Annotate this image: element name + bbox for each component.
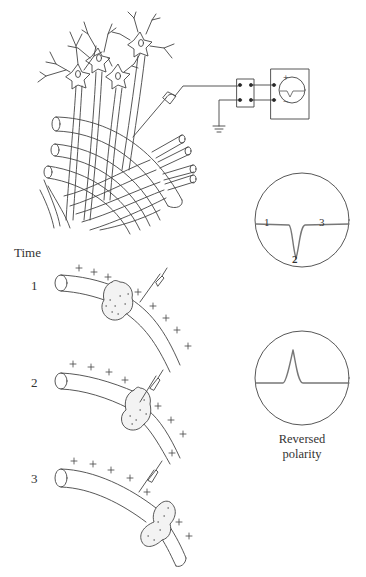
time-step-3: 3 bbox=[31, 471, 38, 487]
nerve-bundle bbox=[40, 117, 196, 234]
switch-box bbox=[213, 79, 274, 132]
time-step-2: 2 bbox=[31, 375, 38, 391]
neuron-recording-diagram: + − 1 2 3 Time 1 2 3 Reversed polarity bbox=[0, 0, 366, 577]
axon-time-3 bbox=[55, 450, 192, 567]
axon-time-2 bbox=[55, 343, 191, 464]
time-step-1: 1 bbox=[31, 278, 38, 294]
oscilloscope-meter bbox=[271, 69, 309, 119]
reversed-polarity-caption: Reversed polarity bbox=[262, 432, 342, 462]
oscilloscope-trace-positive bbox=[255, 331, 349, 425]
diagram-artwork bbox=[0, 0, 366, 577]
plus-charges-3 bbox=[71, 450, 192, 539]
caption-line-1: Reversed bbox=[262, 432, 342, 447]
axon-time-1 bbox=[55, 265, 180, 372]
caption-line-2: polarity bbox=[262, 447, 342, 462]
trace-point-2: 2 bbox=[292, 253, 298, 265]
time-heading: Time bbox=[14, 245, 41, 261]
trace-point-1: 1 bbox=[264, 216, 270, 228]
meter-minus-label: − bbox=[283, 96, 289, 107]
meter-plus-label: + bbox=[283, 72, 289, 83]
trace-point-3: 3 bbox=[319, 216, 325, 228]
